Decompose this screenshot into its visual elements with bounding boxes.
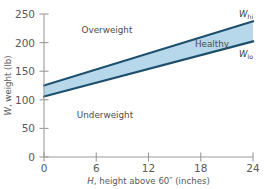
overweight-region-label: Overweight — [82, 25, 133, 35]
y-tick-label: 200 — [15, 37, 35, 49]
underweight-region-label: Underweight — [77, 110, 134, 120]
x-tick-label: 0 — [41, 162, 48, 174]
y-tick-label: 0 — [28, 151, 35, 163]
x-tick-label: 6 — [93, 162, 100, 174]
x-tick-label: 12 — [142, 162, 155, 174]
y-tick-label: 150 — [15, 65, 35, 77]
chart-svg: 250 200 150 100 50 0 0 6 12 18 24 H, hei… — [0, 0, 267, 189]
healthy-region-label: Healthy — [195, 39, 229, 49]
x-axis-title: H, height above 60″ (inches) — [87, 176, 210, 186]
w-lo-label-subscript: lo — [248, 53, 254, 60]
x-axis-title-text: , height above 60″ (inches) — [94, 176, 210, 186]
y-axis-title-text: , weight (lb) — [3, 55, 13, 107]
weight-height-chart: 250 200 150 100 50 0 0 6 12 18 24 H, hei… — [0, 0, 267, 189]
y-tick-label: 100 — [15, 94, 35, 106]
x-tick-label: 24 — [246, 162, 260, 174]
y-tick-label: 50 — [22, 122, 35, 134]
x-tick-label: 18 — [194, 162, 207, 174]
y-tick-label: 250 — [15, 8, 35, 20]
y-axis-title: W, weight (lb) — [3, 55, 13, 115]
w-hi-label-subscript: hi — [248, 13, 254, 20]
